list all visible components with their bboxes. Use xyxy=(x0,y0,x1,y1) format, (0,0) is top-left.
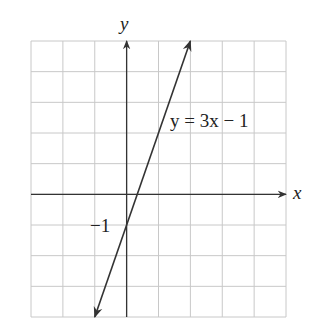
equation-label: y = 3x − 1 xyxy=(170,111,248,130)
line-series xyxy=(95,41,191,317)
grid-lines xyxy=(31,41,286,317)
equation-text: y = 3x − 1 xyxy=(170,110,248,131)
x-axis-label: x xyxy=(293,183,301,202)
y-intercept-label: −1 xyxy=(90,216,110,235)
coordinate-plane xyxy=(0,0,320,322)
line-y-equals-3x-minus-1 xyxy=(95,41,191,317)
y-axis-label: y xyxy=(120,14,128,33)
